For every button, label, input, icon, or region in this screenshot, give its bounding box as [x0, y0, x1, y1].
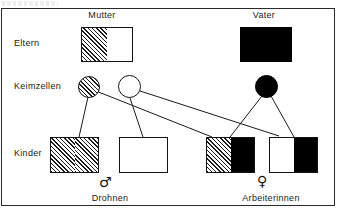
- row-label-keimzellen: Keimzellen: [14, 81, 61, 91]
- arbeiterin1-allele-right: [231, 138, 255, 172]
- child-box-drohne-2: [119, 137, 168, 173]
- mutter-allele-left: [82, 28, 107, 61]
- drohne1-allele-left: [51, 138, 75, 172]
- parent-box-vater: [240, 27, 292, 62]
- inheritance-diagram: Eltern Keimzellen Kinder Mutter Vater ♂ …: [0, 0, 338, 215]
- drohne2-allele-left: [120, 138, 144, 172]
- child-box-drohne-1: [50, 137, 99, 173]
- column-header-vater: Vater: [224, 10, 304, 20]
- drohne2-allele-right: [144, 138, 168, 172]
- germ-cell-mutter-white: [118, 75, 141, 98]
- drohne1-allele-right: [75, 138, 99, 172]
- arbeiterin2-allele-right: [294, 138, 318, 172]
- arbeiterin1-allele-left: [207, 138, 231, 172]
- germ-cell-mutter-hatch: [78, 76, 100, 98]
- vater-allele-left: [241, 28, 266, 61]
- parent-box-mutter: [81, 27, 133, 62]
- row-label-kinder: Kinder: [14, 148, 42, 158]
- mutter-allele-right: [107, 28, 132, 61]
- cropped-caption-remnant: [2, 1, 58, 6]
- row-label-eltern: Eltern: [14, 38, 39, 48]
- child-box-arbeiterin-2: [269, 137, 318, 173]
- arbeiterin2-allele-left: [270, 138, 294, 172]
- female-symbol-icon: ♀: [257, 174, 267, 188]
- germ-cell-vater-black: [255, 75, 278, 98]
- column-header-mutter: Mutter: [62, 10, 142, 20]
- male-symbol-icon: ♂: [99, 175, 112, 189]
- bottom-label-drohnen: Drohnen: [65, 193, 155, 203]
- vater-allele-right: [266, 28, 291, 61]
- bottom-label-arbeiterinnen: Arbeiterinnen: [217, 193, 325, 203]
- child-box-arbeiterin-1: [206, 137, 255, 173]
